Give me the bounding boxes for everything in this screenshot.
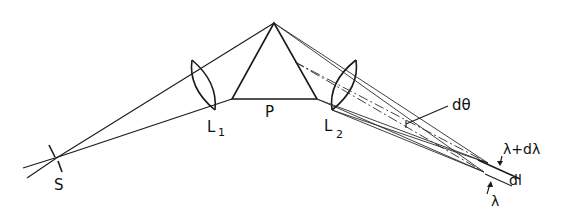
label-lens1: L	[207, 118, 216, 136]
label-lens2-sub: 2	[336, 128, 343, 141]
label-lens1-sub: 1	[218, 126, 225, 139]
source-slit	[23, 145, 62, 178]
lens-l1	[191, 60, 215, 110]
prism	[232, 23, 317, 99]
label-dtheta: dθ	[452, 96, 471, 114]
lens-l2	[332, 60, 357, 110]
label-source: S	[54, 176, 64, 194]
wavelength-arrows	[487, 156, 503, 194]
label-lens2: L	[324, 117, 333, 135]
dtheta-leader	[406, 106, 448, 124]
spectrometer-diagram: S L 1 P L 2 dθ λ+dλ dl λ	[0, 0, 572, 219]
label-lambda-plus-dlambda: λ+dλ	[503, 141, 540, 157]
incident-rays	[58, 23, 274, 157]
label-dl: dl	[509, 172, 522, 188]
label-lambda: λ	[491, 193, 499, 209]
label-prism: P	[265, 103, 274, 121]
